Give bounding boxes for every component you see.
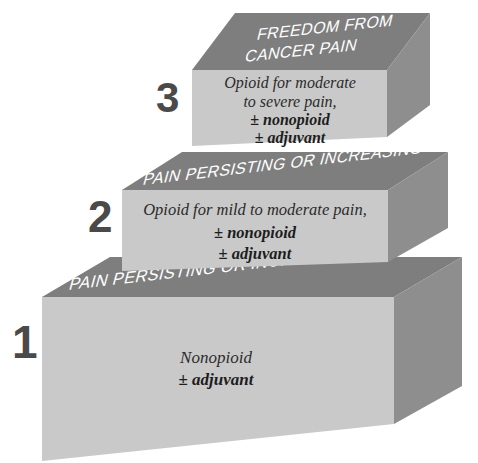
step-3-body-line-1: Opioid for moderate xyxy=(224,74,356,92)
step-2-block: PAIN PERSISTING OR INCREASING Opioid for… xyxy=(88,138,448,271)
step-3-body-line-3: ± nonopioid xyxy=(250,111,330,129)
step-3-block: FREEDOM FROM CANCER PAIN Opioid for mode… xyxy=(156,11,430,147)
step-2-body-line-3: ± adjuvant xyxy=(219,244,292,263)
step-1-body-line-1: Nonopioid xyxy=(179,348,252,367)
step-2-body-line-1: Opioid for mild to moderate pain, xyxy=(143,200,367,219)
step-3-body-line-4: ± adjuvant xyxy=(255,129,326,147)
step-2-body-line-2: ± nonopioid xyxy=(214,223,297,242)
analgesic-ladder-diagram: PAIN PERSISTING OR INCREASING Nonopioid … xyxy=(0,0,478,463)
step-3-body-line-2: to severe pain, xyxy=(243,93,336,111)
step-1-number: 1 xyxy=(12,316,38,368)
step-1-body-line-2: ± adjuvant xyxy=(179,370,255,389)
step-2-number: 2 xyxy=(88,192,112,241)
ladder-canvas: PAIN PERSISTING OR INCREASING Nonopioid … xyxy=(0,0,478,463)
step-3-number: 3 xyxy=(156,74,179,121)
step-1-block: PAIN PERSISTING OR INCREASING Nonopioid … xyxy=(12,241,462,461)
